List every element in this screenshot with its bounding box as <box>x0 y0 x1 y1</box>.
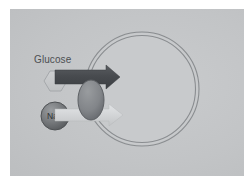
diagram-canvas: Glucose Na + <box>10 9 244 176</box>
cell-interior <box>86 33 198 145</box>
diagram-svg: Glucose Na + <box>10 9 244 176</box>
figure-panel: Glucose Na + <box>10 9 244 176</box>
transport-protein-oval <box>78 80 104 120</box>
figure-root: Glucose Na + <box>0 0 252 185</box>
glucose-label: Glucose <box>34 54 72 65</box>
